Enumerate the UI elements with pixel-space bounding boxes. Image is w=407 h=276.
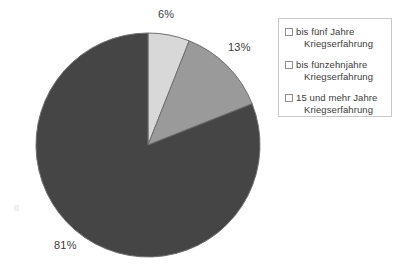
legend-label-1-line1: bis fünzehnjahre <box>296 59 367 70</box>
pie-data-label-0: 6% <box>158 8 174 20</box>
legend-swatch-icon-2 <box>285 94 293 102</box>
pie-data-label-2: 81% <box>54 239 77 251</box>
scan-artifact <box>14 205 19 211</box>
legend-label-2-line1: 15 und mehr Jahre <box>296 92 377 103</box>
pie-plot-area: 6% 13% 81% <box>0 0 270 276</box>
legend-item-0: bis fünf JahreKriegserfahrung <box>285 26 386 50</box>
legend-label-2-line2: Kriegserfahrung <box>296 104 377 116</box>
legend-label-1-line2: Kriegserfahrung <box>296 71 373 83</box>
legend-item-1: bis fünzehnjahreKriegserfahrung <box>285 59 386 83</box>
legend-label-0-line1: bis fünf Jahre <box>296 26 354 37</box>
legend-label-0-line2: Kriegserfahrung <box>296 38 373 50</box>
pie-chart-figure: 6% 13% 81% bis fünf JahreKriegserfahrung… <box>0 0 407 276</box>
pie-slice-group <box>36 33 260 257</box>
legend-swatch-icon-1 <box>285 61 293 69</box>
legend-label-2: 15 und mehr JahreKriegserfahrung <box>296 92 377 116</box>
legend-label-1: bis fünzehnjahreKriegserfahrung <box>296 59 373 83</box>
chart-legend: bis fünf JahreKriegserfahrung bis fünzeh… <box>278 18 392 117</box>
legend-swatch-icon-0 <box>285 28 293 36</box>
pie-data-label-1: 13% <box>228 41 251 53</box>
legend-item-2: 15 und mehr JahreKriegserfahrung <box>285 92 386 116</box>
legend-label-0: bis fünf JahreKriegserfahrung <box>296 26 373 50</box>
